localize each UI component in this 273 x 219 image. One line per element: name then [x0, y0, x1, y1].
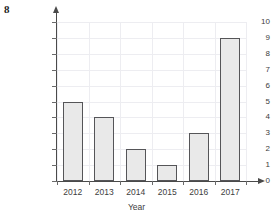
x-axis-tick — [215, 181, 216, 185]
x-axis-tick — [152, 181, 153, 185]
plot-area — [57, 22, 246, 181]
x-axis-tick-label: 2017 — [210, 188, 250, 197]
gridline-vertical — [89, 22, 90, 181]
x-axis-tick — [57, 181, 58, 185]
gridline-vertical — [215, 22, 216, 181]
gridline-vertical — [120, 22, 121, 181]
x-axis-tick — [246, 181, 247, 185]
bar — [220, 38, 240, 181]
y-axis-tick — [52, 165, 57, 166]
bar — [189, 133, 209, 181]
bar — [63, 102, 83, 182]
y-axis-tick — [52, 54, 57, 55]
bar — [126, 149, 146, 181]
y-axis-tick — [52, 70, 57, 71]
bar — [94, 117, 114, 181]
y-axis-tick — [52, 149, 57, 150]
y-axis-tick — [52, 102, 57, 103]
y-axis-arrow-icon — [53, 6, 59, 13]
x-axis-label: Year — [0, 202, 273, 212]
y-axis-tick — [52, 117, 57, 118]
gridline-vertical — [183, 22, 184, 181]
y-axis-tick — [52, 133, 57, 134]
y-axis-tick — [52, 86, 57, 87]
y-axis-tick-label: 10 — [229, 18, 273, 26]
bar-chart: 012345678910 201220132014201520162017 Nu… — [0, 0, 273, 219]
x-axis-tick — [120, 181, 121, 185]
gridline-vertical — [57, 22, 58, 181]
bar — [157, 165, 177, 181]
chart-page: 8 012345678910 201220132014201520162017 … — [0, 0, 273, 219]
x-axis-tick — [89, 181, 90, 185]
gridline-vertical — [152, 22, 153, 181]
y-axis-tick — [52, 22, 57, 23]
y-axis-tick — [52, 38, 57, 39]
x-axis-tick — [183, 181, 184, 185]
